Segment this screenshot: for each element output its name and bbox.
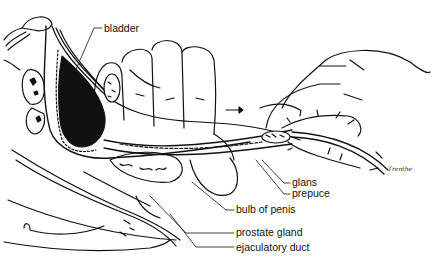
direction-arrow [226,107,243,113]
illustration-drawing [0,0,438,257]
anatomy-figure: bladder glans prepuce bulb of penis pros… [0,0,438,257]
label-glans: glans [292,177,317,188]
bladder-walls [44,26,300,158]
label-bulb-of-penis: bulb of penis [236,204,296,215]
catheter-tube [292,132,388,174]
prostate-leader [150,196,234,233]
pelvic-organs-left [4,60,45,134]
glans-leader [262,160,290,183]
hand-holding-penis [94,41,237,196]
ejaculatory-leader [170,214,234,247]
label-ejaculatory-duct: ejaculatory duct [236,242,310,253]
prepuce-leader [256,160,290,194]
label-prepuce: prepuce [292,188,330,199]
right-hand-inserting-catheter [260,50,430,170]
artist-signature: Trenthe [388,165,412,172]
penis-shaft [104,70,292,182]
bulb-leader [192,182,234,210]
label-bladder: bladder [104,23,139,34]
label-prostate-gland: prostate gland [236,227,303,238]
